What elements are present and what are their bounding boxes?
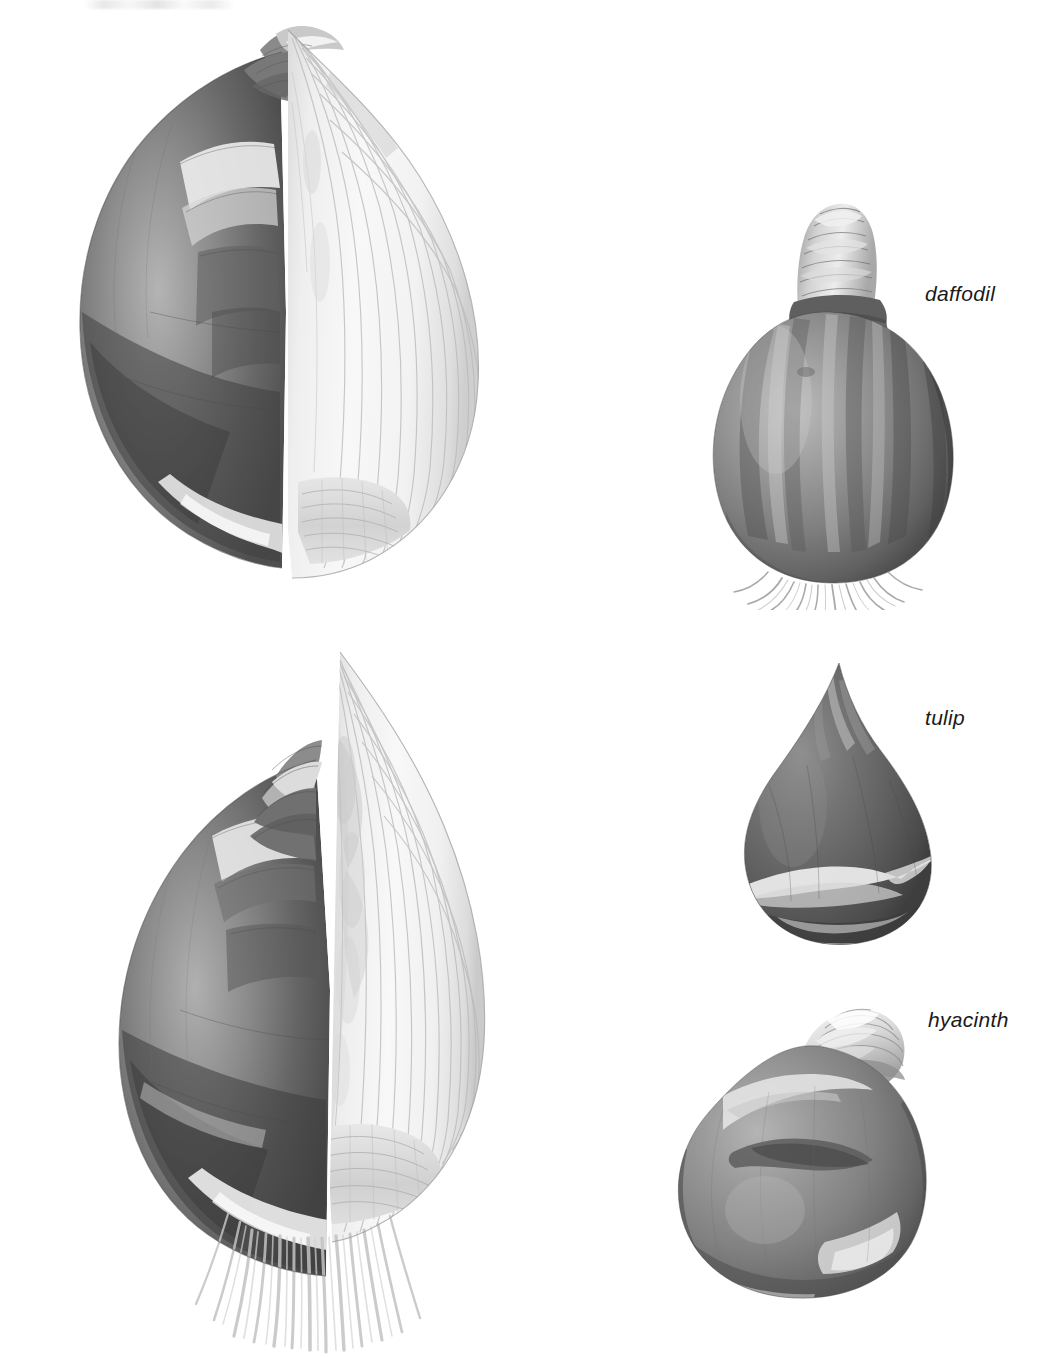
figure-daffodil-bulb <box>690 200 970 610</box>
label-daffodil: daffodil <box>925 282 995 306</box>
scan-artifact <box>85 0 235 9</box>
figure-tulip-bulb <box>735 655 955 955</box>
figure-hyacinth-bulb <box>665 1000 945 1300</box>
label-hyacinth: hyacinth <box>928 1008 1009 1032</box>
figure-onion-bulb-large-bottom <box>40 630 560 1358</box>
figure-onion-bulb-large-top <box>30 12 540 612</box>
illustration-plate: daffodil <box>0 0 1057 1358</box>
label-tulip: tulip <box>925 706 965 730</box>
